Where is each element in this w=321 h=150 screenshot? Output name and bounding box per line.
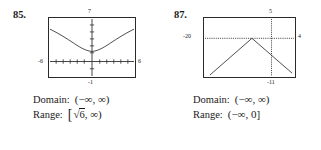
axis-left-label: -20 [183,33,191,39]
problem-87: 87. 5 -11 -20 4 Domain: (−∞, ∞) Range: (… [161,0,321,150]
answers-block: Domain: (−∞, ∞) Range: (−∞, 0] [161,92,321,122]
range-value: (−∞, 0] [228,107,260,122]
axis-top-label: 5 [269,8,272,14]
domain-line: Domain: (−∞, ∞) [0,92,161,107]
radicand: 6 [79,109,84,120]
curve-path [210,38,292,75]
range-line: Range: (−∞, 0] [161,107,321,122]
problem-number: 85. [13,9,26,20]
axis-bottom-label: -1 [88,79,93,85]
problem-number: 87. [174,9,187,20]
axis-bottom-label: -11 [267,79,275,85]
range-label: Range: [33,107,63,122]
range-tail: , ∞) [85,107,102,122]
answers-block: Domain: (−∞, ∞) Range: [ √6 , ∞) [0,92,161,122]
domain-label: Domain: [193,92,230,107]
domain-value: (−∞, ∞) [235,92,270,107]
worksheet-page: 85. [0,0,321,150]
graph-87-plot [203,17,296,78]
axis-right-label: 4 [298,33,301,39]
axis-right-label: 6 [138,58,141,64]
graph-85-svg [49,18,135,77]
axis-left-label: -6 [38,58,43,64]
graph-87-svg [204,18,295,77]
domain-label: Domain: [33,92,70,107]
graph-85-plot [48,17,136,78]
radical-overbar [79,108,85,109]
range-line: Range: [ √6 , ∞) [0,107,161,122]
radical-group: √6 [72,107,84,122]
domain-value: (−∞, ∞) [75,92,110,107]
range-label: Range: [193,107,223,122]
domain-line: Domain: (−∞, ∞) [161,92,321,107]
problem-85: 85. [0,0,161,150]
axis-top-label: 7 [88,8,91,14]
